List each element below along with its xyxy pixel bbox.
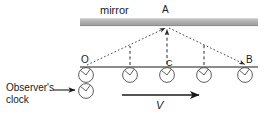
clock-face bbox=[197, 68, 212, 83]
clock-face bbox=[123, 68, 138, 83]
clock-face bbox=[160, 68, 175, 83]
clock-face bbox=[238, 68, 253, 83]
clock-group-baseline bbox=[79, 68, 253, 83]
point-o-label: O bbox=[81, 54, 89, 66]
mirror-bar bbox=[80, 18, 258, 26]
relativity-light-clock-diagram: mirror A O C B Observer's clock V bbox=[0, 0, 268, 115]
clock-face bbox=[79, 68, 94, 83]
observers-clock-label: Observer's clock bbox=[6, 82, 54, 105]
point-b-label: B bbox=[246, 54, 253, 66]
observers-clock-label-line2: clock bbox=[6, 94, 54, 106]
velocity-label: V bbox=[156, 99, 163, 112]
observers-clock bbox=[79, 84, 94, 99]
point-c-label: C bbox=[166, 58, 173, 68]
light-path-a-to-b bbox=[169, 28, 245, 65]
observers-clock-label-line1: Observer's bbox=[6, 82, 54, 94]
light-path-o-to-a bbox=[87, 28, 166, 65]
mirror-label: mirror bbox=[100, 4, 129, 17]
point-a-label: A bbox=[162, 4, 169, 16]
